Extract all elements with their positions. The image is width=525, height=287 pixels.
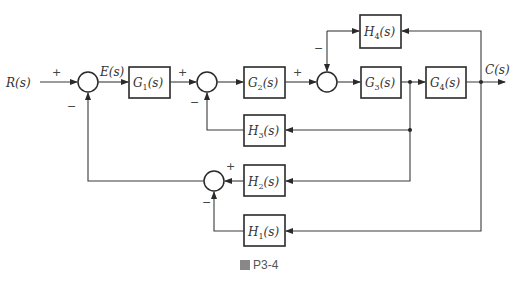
label-g3: G3(s) [365, 76, 396, 92]
h1-in-line [286, 82, 481, 231]
label-h2: H2(s) [247, 175, 279, 191]
sign-s4-in: + [226, 160, 235, 173]
label-g4: G4(s) [430, 76, 461, 92]
label-h1: H1(s) [247, 225, 279, 241]
sign-s3-in: + [293, 66, 302, 79]
sign-s2-fb: − [190, 96, 199, 109]
caption-label: P3-4 [253, 258, 278, 272]
input-label: R(s) [5, 76, 31, 90]
h1-out-line [214, 192, 244, 231]
sign-s1-in: + [52, 66, 61, 79]
h2-in-line [286, 130, 410, 181]
sign-s3-fb: − [314, 42, 323, 55]
error-label: E(s) [99, 65, 125, 79]
figure-caption: P3-4 [240, 258, 278, 272]
summing-junction-4 [204, 171, 224, 191]
label-h4: H4(s) [363, 25, 395, 41]
label-g2: G2(s) [248, 76, 279, 92]
sign-s4-fb: − [202, 196, 211, 209]
label-g1: G1(s) [133, 76, 164, 92]
summing-junction-1 [78, 72, 98, 92]
sign-s1-fb: − [67, 100, 76, 113]
sign-s2-in: + [178, 66, 187, 79]
block-diagram: G1(s) G2(s) G3(s) G4(s) H4(s) H3(s) H2(s… [0, 0, 525, 287]
s4-out-line [88, 93, 204, 181]
summing-junction-2 [197, 72, 217, 92]
caption-prefix-icon [240, 260, 250, 270]
output-label: C(s) [485, 63, 510, 77]
label-h3: H3(s) [247, 124, 279, 140]
h3-out-line [207, 93, 244, 130]
summing-junction-3 [317, 72, 337, 92]
